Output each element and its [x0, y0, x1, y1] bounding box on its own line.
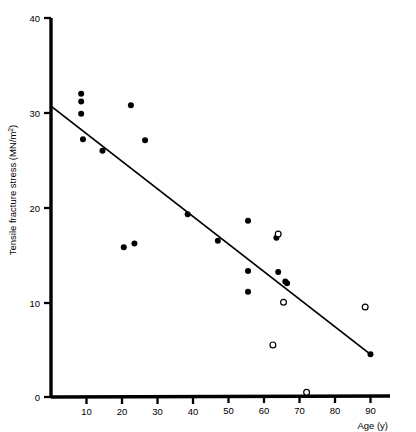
y-axis-title: Tensile fracture stress (MN/m2): [7, 125, 18, 255]
x-tick-label-40: 40: [188, 406, 199, 417]
data-point-filled: [215, 238, 221, 244]
x-tick-label-90: 90: [365, 405, 376, 416]
y-tick-label-10: 10: [29, 298, 40, 309]
data-point-open: [270, 342, 276, 348]
y-axis-title-tail: ): [7, 125, 18, 128]
data-point-filled: [284, 280, 290, 286]
data-point-filled: [275, 269, 281, 275]
regression-line: [51, 106, 371, 354]
data-point-filled: [80, 136, 86, 142]
data-point-filled: [78, 98, 84, 104]
data-point-filled: [78, 111, 84, 117]
x-tick-label-70: 70: [294, 405, 305, 416]
y-tick-label-30: 30: [29, 108, 40, 119]
x-tick-label-30: 30: [152, 406, 163, 417]
scatter-chart: 40 30 20 10 0 10 20 30 40 50 60 70: [0, 0, 416, 432]
x-tick-label-80: 80: [330, 405, 341, 416]
data-point-open: [304, 389, 310, 395]
x-tick-label-50: 50: [223, 405, 234, 416]
data-point-filled: [121, 244, 127, 250]
y-tick-labels: 40 30 20 10 0: [29, 13, 40, 403]
data-point-filled: [99, 148, 105, 154]
x-axis-title: Age (y): [357, 420, 388, 431]
data-point-filled: [142, 137, 148, 143]
data-point-filled: [78, 91, 84, 97]
data-point-filled: [245, 218, 251, 224]
x-tick-label-60: 60: [259, 405, 270, 416]
data-point-open: [281, 299, 287, 305]
chart-svg: 40 30 20 10 0 10 20 30 40 50 60 70: [0, 0, 416, 432]
x-axis-line: [51, 396, 390, 397]
y-tick-label-40: 40: [29, 13, 40, 24]
data-point-filled: [128, 102, 134, 108]
data-point-filled: [368, 351, 374, 357]
x-tick-label-20: 20: [117, 406, 128, 417]
data-point-open: [275, 231, 281, 237]
data-point-filled: [131, 241, 137, 247]
y-axis-title-base: Tensile fracture stress (MN/m: [7, 132, 18, 256]
y-tick-label-20: 20: [29, 203, 40, 214]
x-tick-label-10: 10: [81, 406, 92, 417]
data-point-filled: [185, 211, 191, 217]
y-tick-label-0: 0: [35, 392, 40, 403]
x-tick-labels: 10 20 30 40 50 60 70 80 90: [81, 405, 376, 417]
data-point-filled: [245, 289, 251, 295]
data-point-open: [362, 304, 368, 310]
data-point-filled: [245, 268, 251, 274]
